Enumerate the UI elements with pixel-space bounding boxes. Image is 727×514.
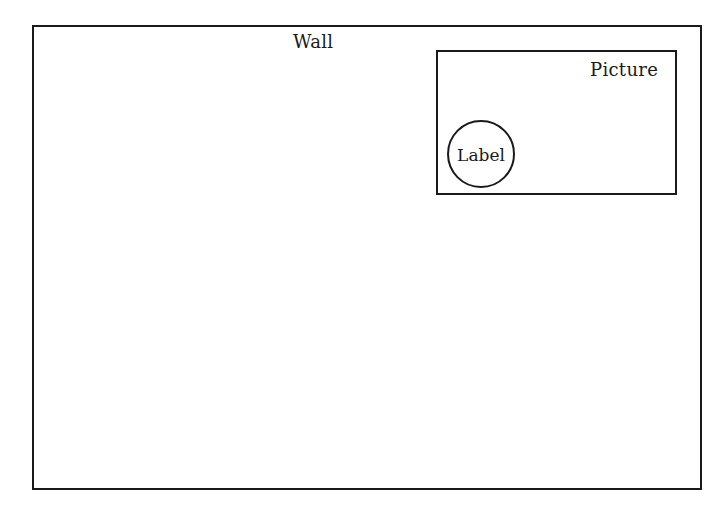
label-text: Label — [457, 145, 505, 165]
label-circle: Label — [447, 120, 515, 188]
picture-label: Picture — [590, 59, 658, 81]
diagram-canvas: Wall Picture Label — [0, 0, 727, 514]
wall-label: Wall — [293, 31, 333, 53]
